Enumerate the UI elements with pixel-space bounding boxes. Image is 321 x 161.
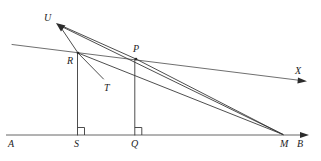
point-label-Q: Q <box>131 139 138 149</box>
ray-MU <box>62 27 284 135</box>
point-label-A: A <box>8 139 14 149</box>
ray-RT <box>78 53 104 79</box>
figure-svg <box>0 0 321 161</box>
point-label-T: T <box>104 83 110 93</box>
arrowhead-X <box>297 78 307 84</box>
right-angle-at-Q <box>135 128 142 136</box>
point-label-U: U <box>44 13 51 23</box>
arrowhead-U <box>56 23 66 32</box>
vertex-dot-P <box>135 58 138 61</box>
geometry-diagram: U R P T X A S Q M B <box>0 0 321 161</box>
point-label-R: R <box>67 56 73 66</box>
point-label-X: X <box>295 66 301 76</box>
line-RX <box>12 45 301 81</box>
point-label-B: B <box>297 139 303 149</box>
vertex-dot-R <box>77 52 80 55</box>
point-label-P: P <box>133 44 139 54</box>
point-label-S: S <box>74 139 79 149</box>
ray-PU <box>61 26 136 60</box>
right-angle-at-S <box>78 128 85 136</box>
point-label-M: M <box>280 139 288 149</box>
segment-PM <box>136 59 283 135</box>
